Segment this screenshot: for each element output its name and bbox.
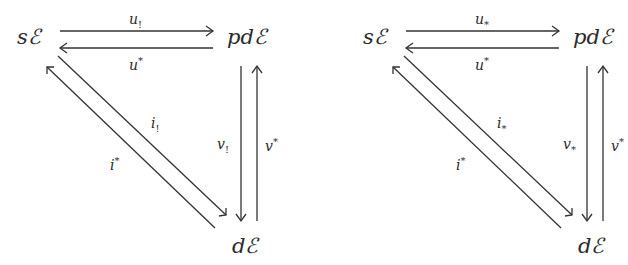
node-s-e: sℰ — [17, 27, 41, 48]
arrow-v-upper-star — [598, 66, 608, 221]
arrow-i-lower-shriek — [58, 56, 226, 216]
adjunction-diagram-right: sℰ pdℰ dℰ u* u* i* i* v* v* — [346, 0, 628, 265]
label-v-upper-star: v* — [611, 137, 624, 153]
arrow-v-lower-star — [582, 66, 592, 221]
adjunction-diagram-left: sℰ pdℰ dℰ u! u* i! i* v! v* — [0, 0, 310, 265]
node-s-e: sℰ — [363, 27, 387, 48]
label-i-lower-shriek: i! — [151, 116, 160, 134]
label-v-upper-star: v* — [265, 137, 278, 153]
label-v-lower-star: v* — [563, 137, 576, 155]
node-d-e: dℰ — [232, 236, 258, 257]
node-pd-e: pdℰ — [227, 27, 267, 48]
label-v-lower-shriek: v! — [217, 137, 229, 155]
arrow-i-upper-star — [47, 67, 215, 228]
node-d-e: dℰ — [578, 236, 604, 257]
label-i-lower-star: i* — [497, 116, 506, 134]
node-pd-e: pdℰ — [573, 27, 613, 48]
label-u-lower-star: u* — [475, 12, 489, 30]
label-u-lower-shriek: u! — [129, 12, 142, 30]
label-i-upper-star: i* — [456, 156, 465, 172]
arrow-i-upper-star — [393, 67, 561, 228]
arrow-u-upper-star — [406, 43, 559, 53]
arrow-v-lower-shriek — [236, 66, 246, 221]
arrow-i-lower-star — [404, 56, 572, 216]
arrow-v-upper-star — [252, 66, 262, 221]
label-i-upper-star: i* — [110, 156, 119, 172]
arrow-u-upper-star — [60, 43, 213, 53]
label-u-upper-star: u* — [475, 56, 489, 72]
label-u-upper-star: u* — [129, 56, 143, 72]
